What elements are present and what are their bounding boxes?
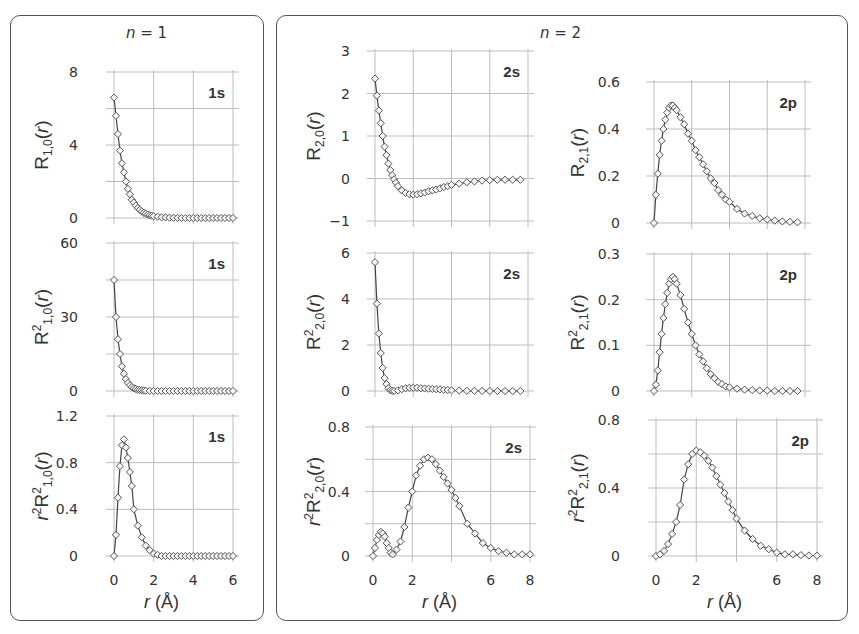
y-tick-label: 4 [69, 137, 78, 153]
orbital-label: 1s [208, 255, 225, 272]
data-point [741, 386, 748, 393]
y-tick-label: 0 [611, 215, 620, 231]
series-line [375, 262, 520, 391]
data-point [110, 276, 117, 283]
data-point [130, 506, 137, 513]
data-point [733, 515, 740, 522]
data-point [126, 468, 133, 475]
data-point [709, 464, 716, 471]
y-tick-label: 0.1 [598, 337, 620, 353]
data-point [486, 387, 493, 394]
data-point [116, 350, 123, 357]
data-point [385, 160, 392, 167]
series-line [654, 106, 797, 224]
ylabel-sub: 2,1 [577, 472, 591, 489]
ylabel-sub: 2,1 [577, 313, 591, 330]
data-point [786, 218, 793, 225]
ylabel-paren-close: ) [567, 294, 588, 300]
ylabel-paren-close: ) [303, 111, 324, 117]
y-tick-label: 0 [341, 171, 350, 187]
data-point [110, 552, 117, 559]
data-point [436, 467, 443, 474]
y-tick-label: 0.2 [598, 292, 620, 308]
data-point [383, 152, 390, 159]
data-point [112, 313, 119, 320]
data-point [379, 132, 386, 139]
orbital-label: 2s [503, 63, 520, 80]
orbital-figure: 0481sR1,0(r)030601sR21,0(r)00.40.81.2024… [0, 0, 859, 634]
data-point [397, 538, 404, 545]
x-axis-label: r (Å) [144, 592, 179, 612]
y-tick-label: 3 [341, 43, 350, 59]
orbital-label: 2p [791, 432, 809, 449]
data-point [509, 176, 516, 183]
data-point [112, 112, 119, 119]
x-axis-label-unit: (Å) [428, 592, 457, 612]
orbital-label: 2p [779, 94, 797, 111]
y-tick-label: 2 [341, 337, 350, 353]
data-point [756, 215, 763, 222]
x-tick-label: 0 [652, 572, 661, 588]
data-point [448, 486, 455, 493]
x-axis-label: r (Å) [707, 592, 742, 612]
y-tick-label: 0 [69, 210, 78, 226]
data-point [729, 507, 736, 514]
data-point [501, 176, 508, 183]
data-point [401, 523, 408, 530]
data-point [794, 387, 801, 394]
data-point [660, 125, 667, 132]
ylabel-main: R [303, 499, 324, 513]
chart-R2_20: 02462sR22,0(r) [302, 245, 534, 399]
ylabel-sub: 1,0 [41, 308, 55, 325]
data-point [487, 544, 494, 551]
data-point [134, 522, 141, 529]
chart-R21: 00.20.40.62pR2,1(r) [567, 74, 811, 231]
data-point [688, 330, 695, 337]
ylabel-main: R [303, 147, 324, 161]
y-tick-label: 1.2 [56, 408, 78, 424]
y-tick-label: 0.8 [328, 419, 350, 435]
chart-R2_21: 00.10.20.32pR22,1(r) [566, 246, 811, 399]
data-point [120, 169, 127, 176]
y-tick-label: 4 [341, 291, 350, 307]
data-point [128, 482, 135, 489]
data-point [688, 137, 695, 144]
data-point [692, 147, 699, 154]
data-point [813, 552, 820, 559]
data-point [409, 488, 416, 495]
ylabel-paren-close: ) [303, 294, 324, 300]
y-axis-label: R2,0(r) [303, 111, 327, 160]
ylabel-main: R [567, 337, 588, 351]
y-tick-label: 0.6 [598, 74, 620, 90]
data-point [692, 342, 699, 349]
data-point [654, 367, 661, 374]
data-point [444, 480, 451, 487]
data-point [479, 387, 486, 394]
data-point [699, 358, 706, 365]
ylabel-main: R [303, 336, 324, 350]
data-point [662, 301, 669, 308]
ylabel-paren-close: ) [31, 451, 52, 457]
y-tick-label: 0 [341, 548, 350, 564]
x-axis-label: r (Å) [422, 592, 457, 612]
x-tick-label: 6 [486, 572, 495, 588]
data-point [114, 494, 121, 501]
data-point [369, 552, 376, 559]
data-point [652, 381, 659, 388]
y-tick-label: 0 [341, 383, 350, 399]
y-tick-label: 0.4 [56, 501, 78, 517]
data-point [440, 473, 447, 480]
y-tick-label: 2 [341, 86, 350, 102]
x-tick-label: 8 [526, 572, 535, 588]
data-point [699, 161, 706, 168]
data-point [495, 548, 502, 555]
orbital-label: 2s [505, 439, 522, 456]
data-point [660, 314, 667, 321]
y-axis-label: r2R22,1(r) [566, 453, 591, 522]
data-point [797, 552, 804, 559]
data-point [379, 364, 386, 371]
ylabel-sub: 1,0 [41, 470, 55, 487]
data-point [471, 387, 478, 394]
orbital-label: 1s [208, 428, 225, 445]
data-point [664, 289, 671, 296]
